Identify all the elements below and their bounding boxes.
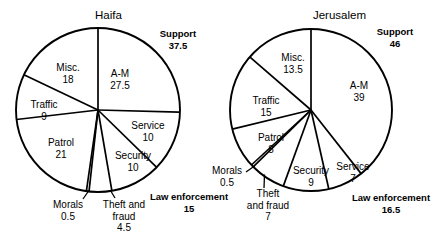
slice-label-jerusalem-security: Security 9 xyxy=(285,165,337,188)
pie-chart-haifa: Haifa A-M 2 xyxy=(0,0,221,250)
leader-haifa-morals xyxy=(83,192,88,200)
slice-label-haifa-patrol: Patrol 21 xyxy=(36,137,86,160)
slice-label-haifa-am: A-M 27.5 xyxy=(93,68,147,91)
group-label-jerusalem-law-enforcement: Law enforcement 16.5 xyxy=(346,192,436,215)
slice-label-jerusalem-patrol: Patrol 8 xyxy=(247,132,295,155)
slice-label-jerusalem-morals: Morals 0.5 xyxy=(205,165,249,188)
group-label-haifa-law-enforcement: Law enforcement 15 xyxy=(146,191,232,214)
leader-jerusalem-theft xyxy=(264,175,265,189)
pie-spoke-haifa-morals-patrol xyxy=(86,110,98,191)
slice-label-haifa-traffic: Traffic 9 xyxy=(19,99,69,122)
slice-label-haifa-security: Security 10 xyxy=(105,150,161,173)
slice-label-jerusalem-theft-and-fraud: Theft and fraud 7 xyxy=(241,188,295,223)
slice-label-haifa-morals: Morals 0.5 xyxy=(44,199,92,222)
slice-label-haifa-misc: Misc. 18 xyxy=(44,62,92,85)
pie-spoke-haifa-am-service xyxy=(98,110,179,112)
pie-chart-figure: Haifa A-M 2 xyxy=(0,0,442,250)
slice-label-jerusalem-traffic: Traffic 15 xyxy=(242,95,290,118)
pie-chart-jerusalem: Jerusalem A-M xyxy=(221,0,442,250)
group-label-haifa-support: Support 37.5 xyxy=(150,28,206,51)
slice-label-haifa-service: Service 10 xyxy=(122,120,174,143)
slice-label-jerusalem-misc: Misc. 13.5 xyxy=(267,52,319,75)
group-label-jerusalem-support: Support 46 xyxy=(367,26,423,49)
slice-label-jerusalem-am: A-M 39 xyxy=(333,80,385,103)
